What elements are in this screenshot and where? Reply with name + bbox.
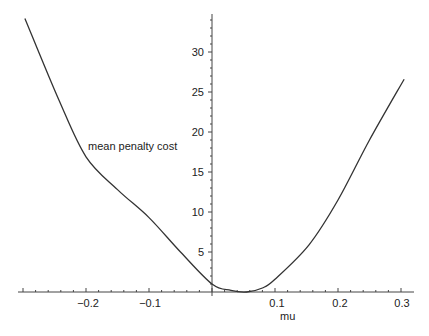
- x-tick-label: −0.1: [130, 298, 170, 309]
- x-tick-label: 0.1: [257, 298, 297, 309]
- x-tick-label: 0.2: [320, 298, 360, 309]
- x-tick-label: 0.3: [382, 298, 422, 309]
- y-tick-label: 10: [174, 207, 204, 218]
- axes: [18, 14, 414, 296]
- y-tick-label: 25: [174, 87, 204, 98]
- y-tick-label: 30: [174, 47, 204, 58]
- data-curve: [25, 18, 404, 292]
- x-tick-label: −0.2: [68, 298, 108, 309]
- y-axis-label: mean penalty cost: [88, 141, 177, 152]
- y-tick-label: 20: [174, 127, 204, 138]
- y-tick-label: 5: [174, 247, 204, 258]
- x-axis-label: mu: [280, 311, 295, 322]
- y-tick-label: 15: [174, 167, 204, 178]
- plot-area: [0, 0, 429, 336]
